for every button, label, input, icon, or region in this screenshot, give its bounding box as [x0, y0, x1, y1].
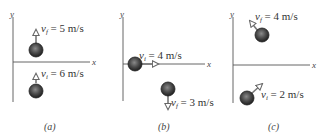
velocity-label: vi = 6 m/s — [41, 67, 84, 81]
ball-icon — [29, 43, 43, 57]
x-axis-label: x — [91, 57, 96, 67]
ball-initial: vi = 6 m/s — [29, 67, 84, 98]
velocity-arrow-icon — [250, 21, 258, 31]
x-axis: x — [233, 60, 316, 70]
ball-icon — [240, 91, 254, 105]
y-axis-label: y — [9, 9, 14, 19]
ball-initial: vi = 2 m/s — [240, 84, 304, 105]
y-axis: y — [9, 9, 14, 102]
x-axis-label: x — [206, 59, 211, 69]
ball-final: vf = 3 m/s — [161, 82, 214, 110]
panel-a: y x vf = 5 m/s vi = 6 m/s (a) — [9, 9, 96, 133]
caption: (c) — [268, 121, 280, 133]
panel-b: y x vi = 4 m/s vf = 3 m/s (b) — [119, 9, 214, 133]
x-axis: x — [13, 57, 96, 67]
y-axis-label: y — [119, 9, 124, 19]
ball-icon — [29, 84, 43, 98]
ball-icon — [161, 82, 175, 96]
ball-final: vf = 4 m/s — [250, 10, 298, 42]
caption: (a) — [44, 121, 56, 133]
panel-c: y x vf = 4 m/s vi = 2 m/s (c) — [229, 9, 316, 133]
ball-final: vf = 5 m/s — [29, 22, 84, 57]
velocity-label: vi = 2 m/s — [261, 88, 304, 102]
caption: (b) — [158, 121, 170, 133]
momentum-diagram: y x vf = 5 m/s vi = 6 m/s (a) y x — [0, 0, 326, 139]
velocity-label: vf = 3 m/s — [171, 96, 214, 110]
y-axis: y — [229, 9, 234, 103]
velocity-label: vi = 4 m/s — [139, 49, 182, 63]
y-axis-label: y — [229, 9, 234, 19]
velocity-label: vf = 5 m/s — [41, 22, 84, 36]
y-axis: y — [119, 9, 124, 101]
x-axis-label: x — [311, 60, 316, 70]
ball-initial: vi = 4 m/s — [128, 49, 182, 71]
velocity-label: vf = 4 m/s — [255, 10, 298, 24]
ball-icon — [255, 28, 269, 42]
